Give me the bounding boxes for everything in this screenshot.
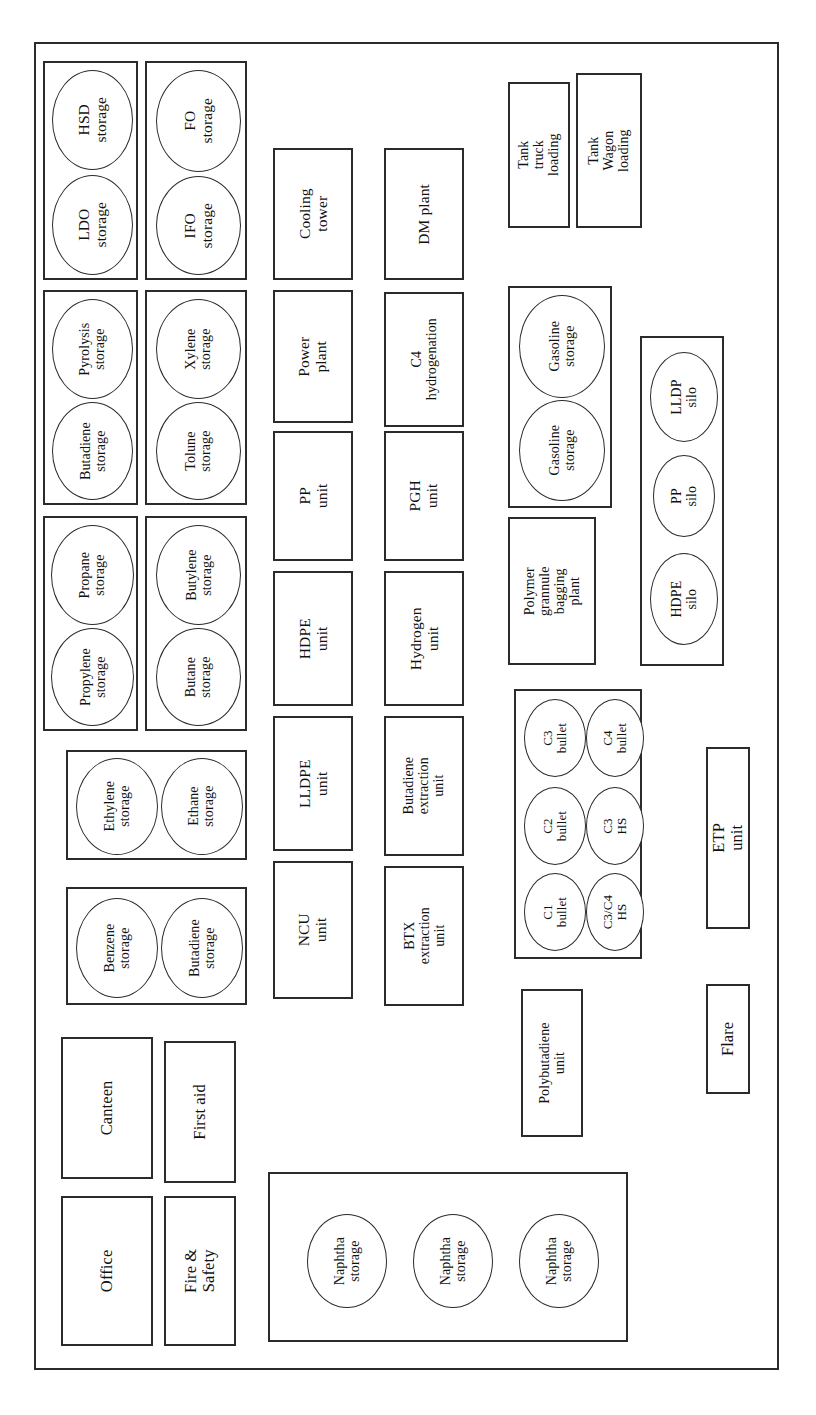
block-c4-hydrogenation[interactable]: C4 hydrogenation <box>384 292 464 427</box>
group-butylene-butane: Butylene storage Butane storage <box>145 516 247 731</box>
block-label: Power plant <box>296 336 329 376</box>
group-naphtha-storage: Naphtha storage Naphtha storage Naphtha … <box>268 1172 628 1342</box>
tank-label: C2 bullet <box>541 811 569 841</box>
block-power-plant[interactable]: Power plant <box>273 290 353 423</box>
group-gasoline-storage: Gasoline storage Gasoline storage <box>508 286 612 508</box>
tank-label: Pyrolysis storage <box>77 322 107 375</box>
block-label: BTX extraction unit <box>401 908 446 965</box>
tank-label: Butylene storage <box>183 549 213 600</box>
group-polymer-silos: LLDP silo PP silo HDPE silo <box>640 336 724 666</box>
block-hdpe-unit[interactable]: HDPE unit <box>273 571 353 706</box>
tank-label: HSD storage <box>76 97 109 142</box>
tank-c1-bullet[interactable]: C1 bullet <box>524 873 586 951</box>
block-pp-unit[interactable]: PP unit <box>273 431 353 561</box>
tank-label: Naphtha storage <box>332 1237 362 1285</box>
block-label: Cooling tower <box>296 189 329 240</box>
tank-label: IFO storage <box>182 203 215 248</box>
block-label: HDPE unit <box>296 618 329 659</box>
tank-label: Naphtha storage <box>438 1237 468 1285</box>
tank-c3c4-hs[interactable]: C3/C4 HS <box>586 873 644 951</box>
tank-ifo-storage[interactable]: IFO storage <box>156 176 241 275</box>
block-label: DM plant <box>416 184 433 245</box>
tank-label: Xylene storage <box>183 328 213 369</box>
tank-pyrolysis-storage[interactable]: Pyrolysis storage <box>52 299 133 399</box>
block-label: Butadiene extraction unit <box>401 757 446 815</box>
tank-label: HDPE silo <box>669 581 699 618</box>
tank-label: Benzene storage <box>102 924 132 973</box>
tank-naphtha-storage-3[interactable]: Naphtha storage <box>519 1214 599 1308</box>
block-label: PP unit <box>296 484 329 509</box>
tank-ldo-storage[interactable]: LDO storage <box>52 175 133 275</box>
block-label: C4 hydrogenation <box>409 318 439 400</box>
tank-label: LLDP silo <box>669 379 699 414</box>
tank-label: FO storage <box>182 98 215 143</box>
block-label: Fire & Safety <box>182 1237 218 1305</box>
tank-label: Gasoline storage <box>547 425 577 476</box>
tank-tolune-storage[interactable]: Tolune storage <box>156 402 241 500</box>
tank-fo-storage[interactable]: FO storage <box>156 70 241 172</box>
group-propane-propylene: Propane storage Propylene storage <box>43 516 138 731</box>
block-label: Tank Wagon loading <box>586 119 631 181</box>
tank-ethane-storage[interactable]: Ethane storage <box>161 758 243 855</box>
tank-lldp-silo[interactable]: LLDP silo <box>650 352 718 442</box>
group-ethylene-ethane: Ethylene storage Ethane storage <box>66 750 247 860</box>
block-label: ETP unit <box>710 818 746 858</box>
tank-hdpe-silo[interactable]: HDPE silo <box>650 553 718 645</box>
plant-boundary: HSD storage LDO storage FO storage IFO s… <box>34 42 779 1370</box>
tank-butylene-storage[interactable]: Butylene storage <box>156 525 241 625</box>
tank-propylene-storage[interactable]: Propylene storage <box>51 628 134 726</box>
tank-c3-bullet[interactable]: C3 bullet <box>524 699 586 777</box>
block-lldpe-unit[interactable]: LLDPE unit <box>273 716 353 851</box>
tank-naphtha-storage-1[interactable]: Naphtha storage <box>307 1214 387 1308</box>
tank-c4-bullet[interactable]: C4 bullet <box>586 699 644 777</box>
block-fire-and-safety[interactable]: Fire & Safety <box>164 1196 236 1346</box>
block-flare[interactable]: Flare <box>706 984 750 1094</box>
block-label: Hydrogen unit <box>407 607 440 670</box>
tank-ethylene-storage[interactable]: Ethylene storage <box>76 758 158 855</box>
block-polybutadiene-unit[interactable]: Polybutadiene unit <box>521 989 583 1137</box>
block-first-aid[interactable]: First aid <box>164 1041 236 1183</box>
tank-label: C4 bullet <box>601 723 629 753</box>
tank-label: Tolune storage <box>183 430 213 471</box>
block-ncu-unit[interactable]: NCU unit <box>273 861 353 999</box>
block-dm-plant[interactable]: DM plant <box>384 148 464 280</box>
tank-label: C1 bullet <box>541 897 569 927</box>
block-btx-extraction-unit[interactable]: BTX extraction unit <box>384 866 464 1006</box>
block-tank-truck-loading[interactable]: Tank truck loading <box>508 82 570 228</box>
block-hydrogen-unit[interactable]: Hydrogen unit <box>384 571 464 706</box>
tank-label: PP silo <box>669 486 699 507</box>
tank-xylene-storage[interactable]: Xylene storage <box>156 299 241 399</box>
block-label: Polymer grannule bagging plant <box>522 566 582 616</box>
block-office[interactable]: Office <box>61 1196 153 1346</box>
tank-butane-storage[interactable]: Butane storage <box>156 628 241 726</box>
tank-gasoline-storage-1[interactable]: Gasoline storage <box>519 295 605 398</box>
tank-naphtha-storage-2[interactable]: Naphtha storage <box>413 1214 493 1308</box>
tank-c2-bullet[interactable]: C2 bullet <box>524 787 586 865</box>
block-label: Canteen <box>98 1081 116 1136</box>
tank-c3-hs[interactable]: C3 HS <box>586 787 644 865</box>
tank-butadiene-storage-lower[interactable]: Butadiene storage <box>161 898 243 998</box>
group-xylene-tolune: Xylene storage Tolune storage <box>145 290 247 505</box>
block-butadiene-extraction-unit[interactable]: Butadiene extraction unit <box>384 716 464 856</box>
block-tank-wagon-loading[interactable]: Tank Wagon loading <box>576 73 642 228</box>
tank-label: C3/C4 HS <box>601 895 629 929</box>
block-canteen[interactable]: Canteen <box>61 1037 153 1179</box>
group-benzene-butadiene: Benzene storage Butadiene storage <box>66 887 247 1005</box>
plot-plan-canvas: HSD storage LDO storage FO storage IFO s… <box>0 0 816 1415</box>
block-polymer-bagging-plant[interactable]: Polymer grannule bagging plant <box>508 517 596 665</box>
block-pgh-unit[interactable]: PGH unit <box>384 431 464 561</box>
tank-hsd-storage[interactable]: HSD storage <box>52 70 133 170</box>
tank-propane-storage[interactable]: Propane storage <box>51 525 134 625</box>
tank-benzene-storage[interactable]: Benzene storage <box>76 898 158 998</box>
block-label: Flare <box>719 1022 737 1056</box>
block-cooling-tower[interactable]: Cooling tower <box>273 148 353 280</box>
tank-label: Propane storage <box>77 552 107 599</box>
block-etp-unit[interactable]: ETP unit <box>706 747 750 929</box>
group-hsd-ldo: HSD storage LDO storage <box>43 61 138 280</box>
block-label: First aid <box>191 1084 209 1139</box>
tank-gasoline-storage-2[interactable]: Gasoline storage <box>519 400 605 501</box>
tank-butadiene-storage-upper[interactable]: Butadiene storage <box>52 402 133 500</box>
tank-pp-silo[interactable]: PP silo <box>653 455 715 537</box>
tank-label: Butadiene storage <box>187 919 217 977</box>
block-label: Polybutadiene unit <box>537 1022 567 1103</box>
